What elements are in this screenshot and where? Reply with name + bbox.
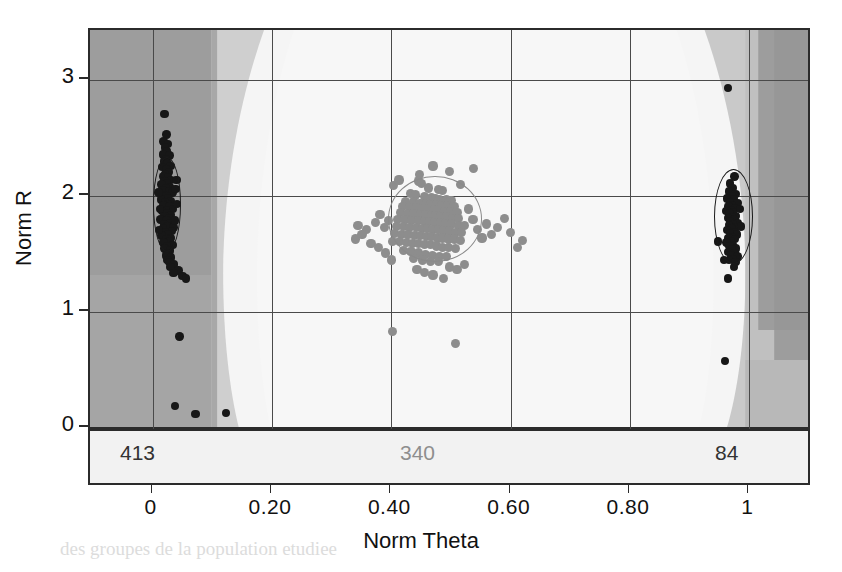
cluster-count-strip: 413 340 84	[90, 429, 808, 485]
y-axis-title: Norm R	[11, 168, 37, 288]
count-label-right: 84	[715, 441, 738, 465]
x-axis-tick-label: 0.60	[469, 495, 549, 519]
x-axis-tick	[628, 485, 629, 493]
x-axis-tick-label: 0.40	[349, 495, 429, 519]
y-axis-tick-label: 2	[34, 179, 74, 205]
cluster-ellipse	[388, 176, 482, 262]
x-axis-title: Norm Theta	[0, 528, 842, 554]
x-axis-tick-label: 0.80	[588, 495, 668, 519]
x-axis-tick	[389, 485, 390, 493]
x-axis-tick-label: 1	[707, 495, 787, 519]
x-axis-tick-label: 0.20	[230, 495, 310, 519]
figure-container: a partir de ces donnees on obtient les c…	[0, 0, 842, 572]
x-axis-tick	[509, 485, 510, 493]
x-axis-tick	[270, 485, 271, 493]
plot-area: 413 340 84	[88, 28, 810, 485]
cluster-ellipse-layer	[90, 30, 808, 429]
x-axis-tick	[747, 485, 748, 493]
x-axis-tick	[151, 485, 152, 493]
cluster-ellipse	[714, 169, 753, 264]
count-label-center: 340	[400, 441, 435, 465]
y-axis-tick	[79, 77, 88, 79]
y-axis-tick-label: 1	[34, 295, 74, 321]
cluster-ellipse	[153, 157, 181, 252]
y-axis-tick-label: 0	[34, 411, 74, 437]
count-label-left: 413	[120, 441, 155, 465]
y-axis-tick-label: 3	[34, 63, 74, 89]
x-axis-tick-label: 0	[111, 495, 191, 519]
y-axis-tick	[79, 193, 88, 195]
y-axis-tick	[79, 309, 88, 311]
y-axis-tick	[79, 425, 88, 427]
